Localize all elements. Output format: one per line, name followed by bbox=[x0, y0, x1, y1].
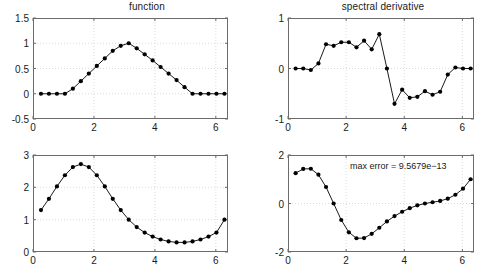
data-line-bottom-right bbox=[296, 169, 471, 239]
data-point bbox=[385, 219, 389, 223]
figure-canvas: function-0.500.511.50246spectral derivat… bbox=[0, 0, 483, 274]
data-point bbox=[332, 201, 336, 205]
data-point bbox=[354, 236, 358, 240]
data-point bbox=[446, 197, 450, 201]
y-tick-label-bottom-right: 0 bbox=[246, 198, 284, 209]
data-point bbox=[347, 230, 351, 234]
data-point bbox=[309, 167, 313, 171]
data-point bbox=[370, 232, 374, 236]
y-tick-label-bottom-right: 2 bbox=[246, 150, 284, 161]
data-point bbox=[324, 185, 328, 189]
data-point bbox=[316, 173, 320, 177]
data-point bbox=[301, 167, 305, 171]
data-point bbox=[415, 203, 419, 207]
data-point bbox=[461, 187, 465, 191]
data-point bbox=[438, 199, 442, 203]
plot-panel-bottom-right: -2020246max error = 9.5679e−13 bbox=[0, 0, 483, 274]
y-tick-label-bottom-right: -2 bbox=[246, 247, 284, 258]
data-point bbox=[377, 226, 381, 230]
x-tick-label-bottom-right: 2 bbox=[343, 255, 349, 266]
data-point bbox=[362, 236, 366, 240]
data-point bbox=[392, 214, 396, 218]
x-tick-label-bottom-right: 6 bbox=[460, 255, 466, 266]
data-point bbox=[453, 193, 457, 197]
data-point bbox=[408, 206, 412, 210]
x-tick-label-bottom-right: 0 bbox=[285, 255, 291, 266]
data-point bbox=[400, 210, 404, 214]
data-point bbox=[423, 201, 427, 205]
data-point bbox=[430, 200, 434, 204]
max-error-annotation: max error = 9.5679e−13 bbox=[350, 161, 447, 171]
plot-graphics-bottom-right bbox=[0, 0, 483, 274]
data-point bbox=[469, 177, 473, 181]
x-tick-label-bottom-right: 4 bbox=[401, 255, 407, 266]
data-point bbox=[339, 218, 343, 222]
data-point bbox=[294, 171, 298, 175]
